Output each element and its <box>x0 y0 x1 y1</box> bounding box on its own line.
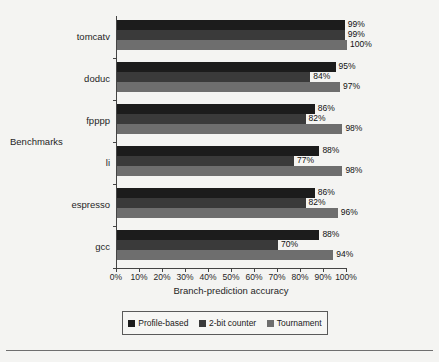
bar <box>117 82 340 92</box>
bar-row: 84% <box>117 72 347 82</box>
bar-value-label: 88% <box>319 145 339 156</box>
category-tick <box>113 58 117 59</box>
bar-row: 96% <box>117 208 347 218</box>
bar-value-label: 82% <box>306 197 326 208</box>
bar <box>117 198 306 208</box>
bar-row: 98% <box>117 166 347 176</box>
bar-value-label: 98% <box>342 123 362 134</box>
bar-row: 70% <box>117 240 347 250</box>
bar <box>117 250 333 260</box>
legend-swatch-icon <box>199 320 206 327</box>
bar <box>117 40 347 50</box>
bar <box>117 240 278 250</box>
bar-row: 97% <box>117 82 347 92</box>
legend-label: Tournament <box>277 318 322 328</box>
x-axis-tick-label: 80% <box>291 272 308 282</box>
bar-row: 99% <box>117 30 347 40</box>
bar-value-label: 95% <box>336 61 356 72</box>
legend-item: Tournament <box>267 318 322 328</box>
chart-legend: Profile-based2-bit counterTournament <box>122 311 328 335</box>
bar-value-label: 100% <box>347 39 372 50</box>
legend-swatch-icon <box>267 320 274 327</box>
bar-row: 98% <box>117 124 347 134</box>
category-label: gcc <box>10 241 110 252</box>
bar-row: 82% <box>117 114 347 124</box>
category-label: li <box>10 157 110 168</box>
bar-value-label: 84% <box>310 71 330 82</box>
legend-label: Profile-based <box>138 318 188 328</box>
x-axis-tick-label: 100% <box>335 272 357 282</box>
bar <box>117 156 294 166</box>
x-axis-tick-label: 40% <box>199 272 216 282</box>
x-axis-tick-label: 30% <box>176 272 193 282</box>
chart-figure: Benchmarks tomcatvdoducfppppliespressogc… <box>0 0 439 362</box>
category-label: tomcatv <box>10 31 110 42</box>
bar <box>117 30 345 40</box>
legend-swatch-icon <box>128 320 135 327</box>
bar <box>117 166 342 176</box>
bar-row: 100% <box>117 40 347 50</box>
bar <box>117 72 310 82</box>
x-axis-tick-labels: 0%10%20%30%40%50%60%70%80%90%100% <box>116 272 346 284</box>
category-tick <box>113 142 117 143</box>
x-axis-tick-label: 90% <box>314 272 331 282</box>
x-axis-tick-label: 0% <box>110 272 122 282</box>
bar-value-label: 96% <box>338 207 358 218</box>
x-axis-title: Branch-prediction accuracy <box>116 285 346 296</box>
x-axis-tick-label: 50% <box>222 272 239 282</box>
bar-group: 88%77%98% <box>117 145 347 181</box>
bar <box>117 114 306 124</box>
bar <box>117 188 315 198</box>
bar-row: 88% <box>117 230 347 240</box>
bar-row: 82% <box>117 198 347 208</box>
bar-value-label: 98% <box>342 165 362 176</box>
bar-value-label: 88% <box>319 229 339 240</box>
bar-row: 77% <box>117 156 347 166</box>
bar-row: 99% <box>117 20 347 30</box>
bar-group: 86%82%96% <box>117 187 347 223</box>
legend-item: Profile-based <box>128 318 188 328</box>
bar-value-label: 77% <box>294 155 314 166</box>
bar <box>117 62 336 72</box>
category-tick <box>113 100 117 101</box>
bar-value-label: 94% <box>333 249 353 260</box>
page-divider-rule <box>6 350 433 351</box>
legend-item: 2-bit counter <box>199 318 256 328</box>
category-label: doduc <box>10 73 110 84</box>
bar-row: 94% <box>117 250 347 260</box>
bar <box>117 20 345 30</box>
x-axis-tick-label: 70% <box>268 272 285 282</box>
x-axis-tick-label: 10% <box>130 272 147 282</box>
bar-value-label: 97% <box>340 81 360 92</box>
bar <box>117 104 315 114</box>
legend-label: 2-bit counter <box>209 318 256 328</box>
bar-group: 86%82%98% <box>117 103 347 139</box>
category-tick <box>113 184 117 185</box>
bar <box>117 124 342 134</box>
bar <box>117 146 319 156</box>
category-label: fpppp <box>10 115 110 126</box>
x-axis-tick-label: 20% <box>153 272 170 282</box>
category-axis-labels: tomcatvdoducfppppliespressogcc <box>10 16 110 268</box>
bar-group: 95%84%97% <box>117 61 347 97</box>
bar <box>117 208 338 218</box>
bar-group: 99%99%100% <box>117 19 347 55</box>
category-tick <box>113 226 117 227</box>
bar-value-label: 70% <box>278 239 298 250</box>
plot-area: 99%99%100%95%84%97%86%82%98%88%77%98%86%… <box>116 16 347 269</box>
bar-value-label: 82% <box>306 113 326 124</box>
bar-group: 88%70%94% <box>117 229 347 265</box>
category-label: espresso <box>10 199 110 210</box>
x-axis-tick-label: 60% <box>245 272 262 282</box>
